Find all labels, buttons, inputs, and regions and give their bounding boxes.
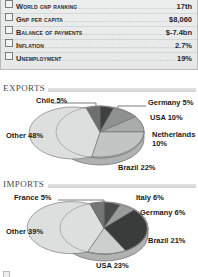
infographic-page: World GNP Ranking ......................… [0, 0, 198, 277]
cut-off-next-section [0, 269, 198, 277]
leader-dots: ........................................… [45, 42, 174, 49]
stat-label: GNP per Capita [16, 15, 63, 24]
stat-value: $8,060 [169, 15, 192, 24]
bullet-square-icon [3, 271, 10, 277]
stat-label: Unemployment [16, 54, 62, 63]
table-row: World GNP Ranking ......................… [1, 1, 197, 14]
key-statistics-table: World GNP Ranking ......................… [0, 0, 198, 70]
bullet-square-icon [5, 39, 13, 47]
imports-title: IMPORTS [3, 179, 44, 189]
table-row: GNP per Capita .........................… [1, 14, 197, 27]
leader-dots: ........................................… [83, 29, 165, 36]
bullet-square-icon [5, 52, 13, 60]
leader-dots: ........................................… [78, 3, 175, 10]
imports-label-italy: Italy 6% [136, 194, 164, 203]
bullet-square-icon [5, 0, 13, 8]
heading-rule [48, 184, 196, 188]
stat-value: 2.7% [175, 41, 192, 50]
stat-label: World GNP Ranking [16, 2, 77, 11]
stat-value: 17th [177, 2, 192, 11]
imports-pie-chart: France 5% Italy 6% Germany 6% Brazil 21%… [0, 190, 198, 274]
table-row: Inflation ..............................… [1, 40, 197, 53]
exports-pie-chart: Chile 5% Germany 5% USA 10% Netherlands … [0, 94, 198, 178]
exports-title: EXPORTS [3, 83, 45, 93]
bullet-square-icon [5, 26, 13, 34]
exports-label-usa: USA 10% [150, 114, 183, 123]
pie-body [27, 202, 148, 261]
pie-body [29, 106, 144, 165]
exports-label-netherlands: Netherlands 10% [152, 131, 194, 148]
stat-label: Inflation [16, 41, 44, 50]
bullet-square-icon [5, 13, 13, 21]
stat-value: $-7.4bn [166, 28, 192, 37]
stat-label: Balance of Payments [16, 28, 82, 37]
exports-label-other: Other 48% [6, 132, 43, 141]
imports-label-brazil: Brazil 21% [148, 237, 186, 246]
table-row: Unemployment ...........................… [1, 53, 197, 66]
exports-label-brazil: Brazil 22% [118, 164, 156, 173]
heading-rule [48, 88, 196, 92]
stat-value: 19% [177, 54, 192, 63]
imports-label-other: Other 39% [6, 228, 43, 237]
imports-label-germany: Germany 6% [140, 209, 185, 218]
leader-dots: ........................................… [63, 55, 176, 62]
imports-label-france: France 5% [14, 194, 52, 203]
exports-label-chile: Chile 5% [36, 97, 67, 106]
leader-dots: ........................................… [64, 16, 168, 23]
exports-label-germany: Germany 5% [148, 99, 193, 108]
table-row: Balance of Payments ....................… [1, 27, 197, 40]
